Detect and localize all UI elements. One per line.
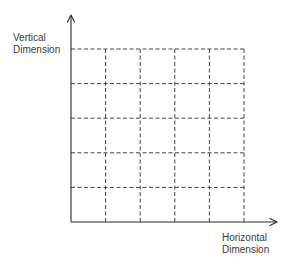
vertical-axis-label-line2: Dimension bbox=[13, 44, 60, 55]
grid-diagram: Vertical Dimension Horizontal Dimension bbox=[0, 0, 293, 265]
dashed-grid bbox=[71, 49, 244, 222]
horizontal-axis-label-line1: Horizontal bbox=[222, 232, 267, 243]
horizontal-axis-label-line2: Dimension bbox=[222, 244, 269, 255]
vertical-axis-label-line1: Vertical bbox=[13, 32, 46, 43]
